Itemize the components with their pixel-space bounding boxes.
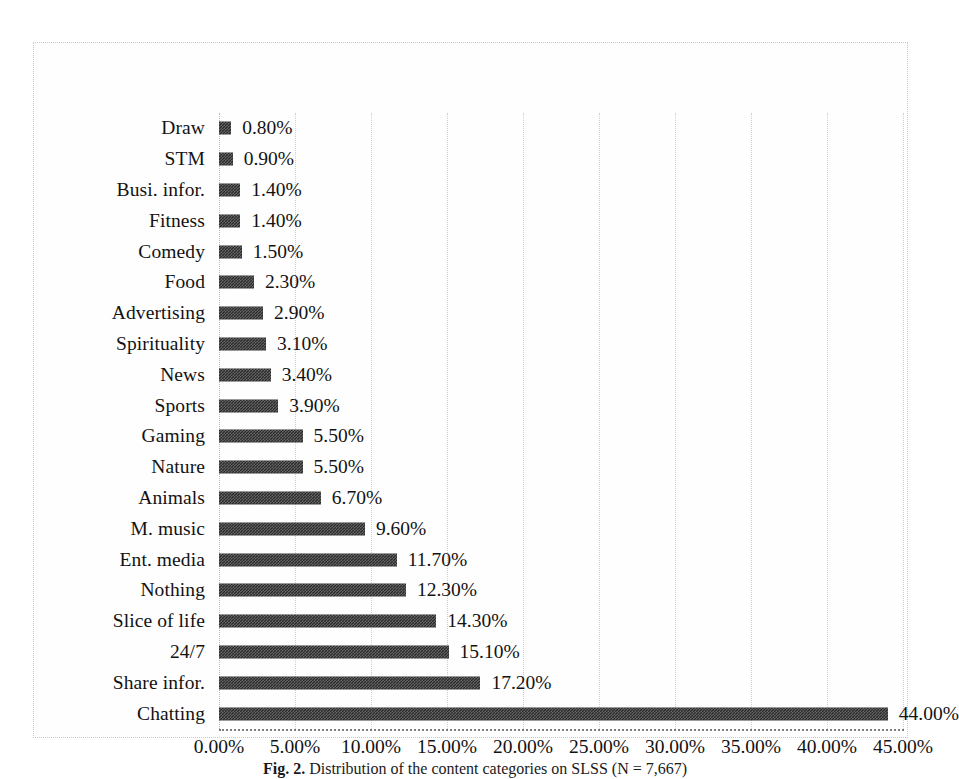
bar-row[interactable]: Ent. media11.70%	[219, 544, 903, 575]
bar-row[interactable]: M. music9.60%	[219, 513, 903, 544]
bar[interactable]	[219, 337, 266, 350]
bar-value-label: 3.40%	[282, 365, 332, 385]
bar-value-label: 1.40%	[251, 211, 301, 231]
bar[interactable]	[219, 214, 240, 227]
bar-row[interactable]: Busi. infor.1.40%	[219, 175, 903, 206]
bar-value-label: 15.10%	[460, 642, 520, 662]
bar[interactable]	[219, 430, 303, 443]
bar-value-label: 0.80%	[242, 119, 292, 139]
bar-value-label: 5.50%	[314, 457, 364, 477]
bar-value-label: 9.60%	[376, 519, 426, 539]
bar-value-label: 12.30%	[417, 581, 477, 601]
bar-row[interactable]: Food2.30%	[219, 267, 903, 298]
bar-row[interactable]: Share infor.17.20%	[219, 667, 903, 698]
x-tick-label: 35.00%	[721, 735, 781, 758]
bar-value-label: 3.90%	[289, 396, 339, 416]
bar-value-label: 0.90%	[244, 149, 294, 169]
plot-area: Draw0.80%STM0.90%Busi. infor.1.40%Fitnes…	[219, 113, 903, 729]
bar-value-label: 1.40%	[251, 180, 301, 200]
bar-value-label: 1.50%	[253, 242, 303, 262]
chart-frame: Draw0.80%STM0.90%Busi. infor.1.40%Fitnes…	[33, 42, 908, 738]
category-label: Ent. media	[120, 550, 205, 570]
bar-value-label: 11.70%	[408, 550, 467, 570]
bar[interactable]	[219, 553, 397, 566]
category-label: Nothing	[140, 581, 205, 601]
category-label: Food	[165, 273, 206, 293]
category-label: Comedy	[138, 242, 205, 262]
bar[interactable]	[219, 307, 263, 320]
category-label: Advertising	[112, 303, 205, 323]
x-tick-label: 45.00%	[873, 735, 933, 758]
bar[interactable]	[219, 153, 233, 166]
bar[interactable]	[219, 615, 436, 628]
bar[interactable]	[219, 183, 240, 196]
category-label: Nature	[151, 457, 205, 477]
category-label: Share infor.	[113, 673, 205, 693]
bar[interactable]	[219, 707, 888, 720]
x-tick-label: 20.00%	[493, 735, 553, 758]
bar[interactable]	[219, 584, 406, 597]
x-tick-label: 30.00%	[645, 735, 705, 758]
bar-row[interactable]: Gaming5.50%	[219, 421, 903, 452]
x-axis-line	[219, 729, 904, 731]
bar[interactable]	[219, 245, 242, 258]
bar-row[interactable]: Spirituality3.10%	[219, 329, 903, 360]
bar-value-label: 14.30%	[447, 611, 507, 631]
bar-row[interactable]: Sports3.90%	[219, 390, 903, 421]
x-tick-label: 40.00%	[797, 735, 857, 758]
bar[interactable]	[219, 676, 480, 689]
bar-row[interactable]: Fitness1.40%	[219, 205, 903, 236]
bar[interactable]	[219, 368, 271, 381]
bar-row[interactable]: Chatting44.00%	[219, 698, 903, 729]
category-label: Gaming	[142, 427, 205, 447]
bar-value-label: 5.50%	[314, 427, 364, 447]
x-tick-label: 15.00%	[417, 735, 477, 758]
category-label: Spirituality	[116, 334, 205, 354]
bar-row[interactable]: 24/715.10%	[219, 637, 903, 668]
category-label: 24/7	[170, 642, 205, 662]
bar[interactable]	[219, 461, 303, 474]
bar-value-label: 3.10%	[277, 334, 327, 354]
category-label: Fitness	[149, 211, 205, 231]
bar-row[interactable]: Nature5.50%	[219, 452, 903, 483]
bar[interactable]	[219, 122, 231, 135]
category-label: Busi. infor.	[117, 180, 205, 200]
category-label: STM	[165, 149, 205, 169]
figure-caption-label: Fig. 2.	[263, 760, 305, 777]
bar-row[interactable]: Comedy1.50%	[219, 236, 903, 267]
bar-value-label: 17.20%	[491, 673, 551, 693]
bar-row[interactable]: Slice of life14.30%	[219, 606, 903, 637]
bar[interactable]	[219, 522, 365, 535]
bar[interactable]	[219, 399, 278, 412]
category-label: News	[160, 365, 205, 385]
category-label: Draw	[161, 119, 205, 139]
bar-value-label: 6.70%	[332, 488, 382, 508]
gridline-45.00%	[903, 113, 904, 729]
category-label: Sports	[155, 396, 205, 416]
bar-row[interactable]: Advertising2.90%	[219, 298, 903, 329]
bar[interactable]	[219, 491, 321, 504]
bar-row[interactable]: Nothing12.30%	[219, 575, 903, 606]
bar-row[interactable]: STM0.90%	[219, 144, 903, 175]
x-tick-label: 25.00%	[569, 735, 629, 758]
x-tick-label: 10.00%	[341, 735, 401, 758]
x-tick-label: 0.00%	[194, 735, 244, 758]
bar[interactable]	[219, 276, 254, 289]
bar-row[interactable]: News3.40%	[219, 359, 903, 390]
category-label: M. music	[131, 519, 205, 539]
figure-caption-text: Distribution of the content categories o…	[309, 760, 687, 777]
bar-value-label: 2.30%	[265, 273, 315, 293]
bar-row[interactable]: Animals6.70%	[219, 483, 903, 514]
bar-value-label: 2.90%	[274, 303, 324, 323]
category-label: Animals	[138, 488, 205, 508]
bar[interactable]	[219, 645, 449, 658]
category-label: Slice of life	[113, 611, 205, 631]
x-tick-label: 5.00%	[270, 735, 320, 758]
bar-row[interactable]: Draw0.80%	[219, 113, 903, 144]
category-label: Chatting	[137, 704, 205, 724]
figure-caption: Fig. 2. Distribution of the content cate…	[0, 759, 950, 779]
bar-value-label: 44.00%	[899, 704, 959, 724]
